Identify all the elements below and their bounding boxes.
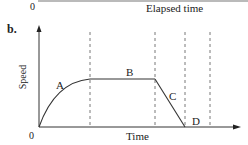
panel-label: b. [7, 23, 17, 35]
origin-label: 0 [29, 131, 34, 141]
segment-label-a: A [56, 80, 64, 91]
panel-a-x-axis-label: Elapsed time [146, 3, 203, 14]
segment-c-line [155, 79, 185, 127]
y-axis-arrow-icon [37, 25, 42, 32]
diagram-canvas [0, 0, 248, 145]
segment-label-c: C [169, 91, 176, 102]
x-axis-arrow-icon [233, 125, 241, 130]
segment-label-d: D [192, 116, 200, 127]
segment-label-b: B [126, 67, 133, 78]
x-axis-label: Time [126, 131, 149, 142]
y-axis-label: Speed [18, 65, 28, 89]
segment-a-curve [39, 79, 90, 127]
panel-a-origin-label: 0 [30, 2, 35, 12]
